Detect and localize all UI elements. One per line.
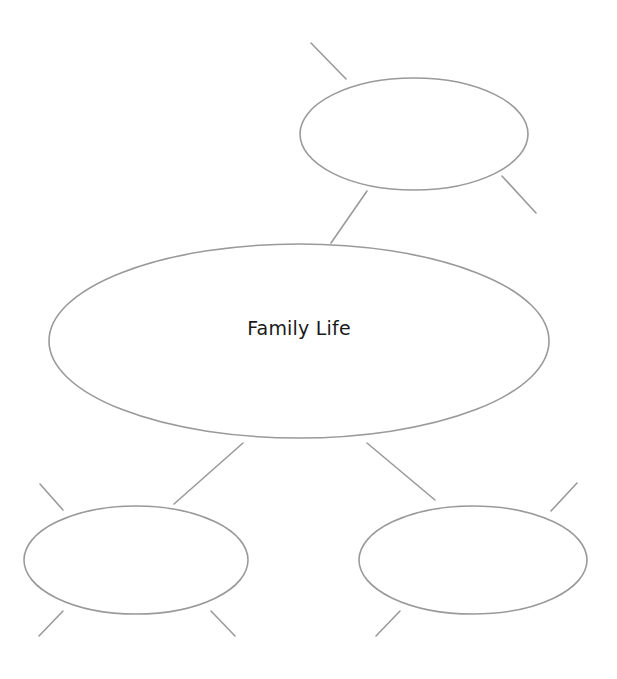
branch-bottom-right-lower-left (376, 611, 400, 636)
connector-center-to-bottom-left (174, 443, 243, 504)
branch-bottom-left-lower-left (39, 611, 63, 636)
branch-top-right-lower-right (502, 176, 536, 213)
branch-bottom-left-upper-left (40, 484, 63, 510)
branch-bottom-left-lower-right (211, 611, 235, 636)
central-node-label: Family Life (247, 317, 351, 339)
node-bottom-right[interactable] (359, 506, 587, 614)
connector-center-to-bottom-right (367, 443, 435, 500)
connector-center-to-top-right (331, 191, 367, 243)
node-bottom-left[interactable] (24, 506, 248, 614)
branch-top-right-upper-left (311, 43, 346, 79)
node-top-right[interactable] (300, 78, 528, 190)
central-node[interactable] (49, 244, 549, 438)
mind-map-canvas (0, 0, 617, 679)
branch-bottom-right-upper-right (551, 483, 577, 511)
